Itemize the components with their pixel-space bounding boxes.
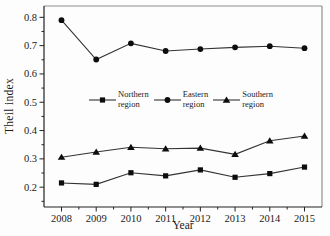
square-marker — [302, 164, 307, 169]
circle-legend-glyph — [154, 94, 181, 106]
circle-marker — [302, 45, 308, 51]
square-marker — [94, 182, 99, 187]
chart-plot-area: 0.20.30.40.50.60.70.82008200920102011201… — [0, 0, 330, 236]
y-axis-label: Theil index — [3, 6, 17, 206]
series-southern — [58, 132, 309, 159]
y-tick-label: 0.2 — [24, 182, 37, 193]
y-tick-label: 0.5 — [24, 97, 37, 108]
legend-label: Northernregion — [118, 90, 149, 109]
series-line — [62, 20, 305, 59]
y-tick-label: 0.7 — [24, 40, 37, 51]
x-axis-label: Year — [44, 219, 322, 231]
circle-marker — [128, 40, 134, 46]
series-northern — [59, 164, 307, 186]
legend-item-eastern: Easternregion — [154, 90, 209, 109]
legend-item-southern: Southernregion — [213, 90, 273, 109]
y-tick-label: 0.4 — [24, 125, 38, 136]
circle-marker — [163, 48, 169, 54]
circle-marker — [59, 17, 65, 23]
circle-marker — [164, 97, 170, 103]
square-marker — [232, 175, 237, 180]
y-ticks: 0.20.30.40.50.60.70.8 — [24, 12, 44, 202]
square-marker — [198, 167, 203, 172]
square-marker — [128, 170, 133, 175]
triangle-marker — [301, 132, 309, 138]
circle-marker — [267, 43, 273, 49]
circle-marker — [93, 57, 99, 63]
series-eastern — [59, 17, 308, 62]
legend: NorthernregionEasternregionSouthernregio… — [89, 90, 273, 109]
square-legend-glyph — [89, 94, 116, 106]
triangle-legend-glyph — [213, 94, 240, 106]
square-marker — [100, 97, 105, 102]
y-tick-label: 0.8 — [24, 12, 37, 23]
circle-marker — [232, 44, 238, 50]
theil-index-chart: 0.20.30.40.50.60.70.82008200920102011201… — [0, 0, 330, 236]
circle-marker — [197, 46, 203, 52]
legend-label: Easternregion — [183, 90, 209, 109]
square-marker — [267, 171, 272, 176]
y-tick-label: 0.6 — [24, 68, 37, 79]
legend-item-northern: Northernregion — [89, 90, 149, 109]
y-tick-label: 0.3 — [24, 153, 37, 164]
square-marker — [163, 173, 168, 178]
square-marker — [59, 180, 64, 185]
legend-label: Southernregion — [242, 90, 273, 109]
